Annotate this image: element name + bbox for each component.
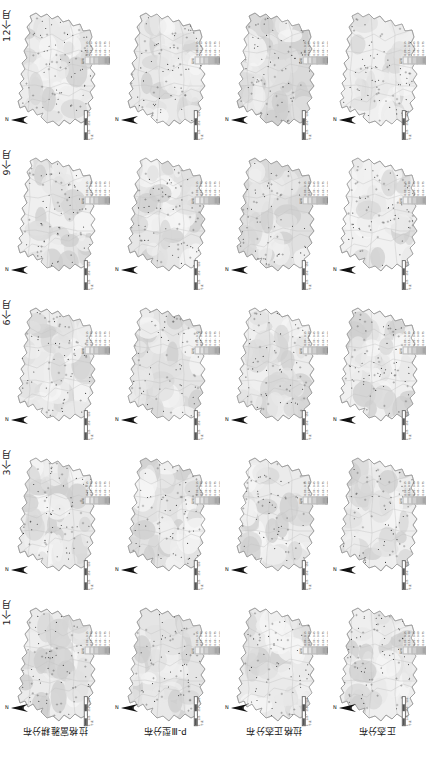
legend-label: 0.60 - 0.75 <box>215 631 218 645</box>
legend-label: 0.60 - 0.75 <box>423 331 426 345</box>
legend-label: 0.45 - 0.60 <box>418 41 421 55</box>
scale-tick: 500 <box>89 261 92 266</box>
svg-text:N: N <box>225 116 229 122</box>
legend-label: 0.30 - 0.45 <box>413 181 416 195</box>
svg-text:N: N <box>5 704 9 710</box>
map-panel: 图例 0.00 - 0.15 0.15 - 0.30 0.30 - 0.45 0… <box>220 590 328 740</box>
legend-label: 0.15 - 0.30 <box>91 41 94 55</box>
legend-label: 0.00 - 0.15 <box>86 181 89 195</box>
legend-label: 0.00 - 0.15 <box>86 331 89 345</box>
map-legend: 图例 0.00 - 0.15 0.15 - 0.30 0.30 - 0.45 0… <box>192 624 220 654</box>
legend-label: 0.60 - 0.75 <box>105 331 108 345</box>
legend-label: 0.00 - 0.15 <box>404 181 407 195</box>
scale-tick: 500 <box>307 561 310 566</box>
svg-text:N: N <box>115 566 119 572</box>
legend-label: 0.60 - 0.75 <box>423 631 426 645</box>
scale-tick: 250 <box>407 120 410 125</box>
legend-label: 0.30 - 0.45 <box>205 181 208 195</box>
map-legend: 图例 0.00 - 0.15 0.15 - 0.30 0.30 - 0.45 0… <box>82 34 110 64</box>
legend-label: 0.30 - 0.45 <box>413 631 416 645</box>
scale-tick: 250 <box>307 420 310 425</box>
scale-bar-unit: 千米 <box>310 284 313 290</box>
legend-label: 0.45 - 0.60 <box>210 331 213 345</box>
legend-label: 0.45 - 0.60 <box>318 631 321 645</box>
legend-label: 0.45 - 0.60 <box>100 41 103 55</box>
north-arrow: N <box>224 702 250 714</box>
north-arrow: N <box>4 414 30 426</box>
scale-tick: 500 <box>307 697 310 702</box>
legend-label: 0.15 - 0.30 <box>91 331 94 345</box>
scale-tick: 500 <box>199 111 202 116</box>
scale-tick: 250 <box>407 706 410 711</box>
north-arrow: N <box>224 564 250 576</box>
north-arrow: N <box>332 702 358 714</box>
map-panel: 9个月 图例 0.00 - 0.15 0.15 - 0.30 0.30 - 0.… <box>0 140 110 290</box>
legend-label: 0.30 - 0.45 <box>205 331 208 345</box>
scale-tick: 250 <box>307 570 310 575</box>
scale-bar: 0125250500 千米 <box>84 410 94 440</box>
scale-tick: 500 <box>407 111 410 116</box>
legend-label: 0.00 - 0.15 <box>304 331 307 345</box>
legend-label: 0.15 - 0.30 <box>201 331 204 345</box>
svg-text:N: N <box>225 416 229 422</box>
scale-bar: 0125250500 千米 <box>194 110 204 140</box>
map-grid: 12个月 图例 0.00 - 0.15 0.15 - 0.30 0.30 - 0… <box>0 0 443 778</box>
map-legend: 图例 0.00 - 0.15 0.15 - 0.30 0.30 - 0.45 0… <box>82 624 110 654</box>
legend-label: 0.60 - 0.75 <box>323 481 326 495</box>
north-arrow-icon: N <box>332 114 358 126</box>
map-legend: 图例 0.00 - 0.15 0.15 - 0.30 0.30 - 0.45 0… <box>400 624 426 654</box>
scale-bar-unit: 千米 <box>310 134 313 140</box>
north-arrow: N <box>114 264 140 276</box>
scale-tick: 500 <box>89 111 92 116</box>
map-legend: 图例 0.00 - 0.15 0.15 - 0.30 0.30 - 0.45 0… <box>400 324 426 354</box>
legend-label: 0.15 - 0.30 <box>201 181 204 195</box>
map-legend: 图例 0.00 - 0.15 0.15 - 0.30 0.30 - 0.45 0… <box>192 474 220 504</box>
map-panel: 1个月 图例 0.00 - 0.15 0.15 - 0.30 0.30 - 0.… <box>0 590 110 740</box>
north-arrow-icon: N <box>114 564 140 576</box>
map-panel: 图例 0.00 - 0.15 0.15 - 0.30 0.30 - 0.45 0… <box>110 0 220 140</box>
svg-text:N: N <box>115 116 119 122</box>
legend-label: 0.15 - 0.30 <box>201 631 204 645</box>
legend-label: 0.30 - 0.45 <box>413 481 416 495</box>
legend-label: 0.45 - 0.60 <box>318 41 321 55</box>
scale-bar: 0125250500 千米 <box>302 110 312 140</box>
map-panel: 图例 0.00 - 0.15 0.15 - 0.30 0.30 - 0.45 0… <box>328 590 426 740</box>
svg-text:N: N <box>225 266 229 272</box>
legend-label: 0.45 - 0.60 <box>100 181 103 195</box>
svg-text:N: N <box>333 566 337 572</box>
north-arrow-icon: N <box>332 414 358 426</box>
legend-label: 0.00 - 0.15 <box>86 41 89 55</box>
legend-label: 0.00 - 0.15 <box>404 631 407 645</box>
scale-bar: 0125250500 千米 <box>84 260 94 290</box>
north-arrow: N <box>114 564 140 576</box>
map-panel: 图例 0.00 - 0.15 0.15 - 0.30 0.30 - 0.45 0… <box>220 0 328 140</box>
map-panel: 图例 0.00 - 0.15 0.15 - 0.30 0.30 - 0.45 0… <box>110 440 220 590</box>
map-legend: 图例 0.00 - 0.15 0.15 - 0.30 0.30 - 0.45 0… <box>300 474 328 504</box>
legend-label: 0.00 - 0.15 <box>404 41 407 55</box>
north-arrow: N <box>114 114 140 126</box>
scale-bar: 0125250500 千米 <box>402 560 412 590</box>
scale-tick: 250 <box>407 420 410 425</box>
legend-label: 0.15 - 0.30 <box>409 481 412 495</box>
map-legend: 图例 0.00 - 0.15 0.15 - 0.30 0.30 - 0.45 0… <box>192 34 220 64</box>
figure-map-matrix: 12个月 图例 0.00 - 0.15 0.15 - 0.30 0.30 - 0… <box>0 0 443 778</box>
north-arrow: N <box>332 114 358 126</box>
north-arrow-icon: N <box>4 414 30 426</box>
legend-label: 0.30 - 0.45 <box>205 41 208 55</box>
legend-label: 0.60 - 0.75 <box>215 481 218 495</box>
legend-label: 0.60 - 0.75 <box>323 181 326 195</box>
north-arrow-icon: N <box>114 264 140 276</box>
scale-bar-unit: 千米 <box>410 584 413 590</box>
north-arrow: N <box>114 702 140 714</box>
legend-label: 0.00 - 0.15 <box>86 631 89 645</box>
north-arrow-icon: N <box>114 414 140 426</box>
legend-label: 0.45 - 0.60 <box>210 41 213 55</box>
map-panel: 图例 0.00 - 0.15 0.15 - 0.30 0.30 - 0.45 0… <box>220 140 328 290</box>
north-arrow-icon: N <box>332 264 358 276</box>
map-panel: 图例 0.00 - 0.15 0.15 - 0.30 0.30 - 0.45 0… <box>220 290 328 440</box>
legend-label: 0.30 - 0.45 <box>95 181 98 195</box>
north-arrow-icon: N <box>4 264 30 276</box>
legend-label: 0.60 - 0.75 <box>323 331 326 345</box>
legend-label: 0.00 - 0.15 <box>196 331 199 345</box>
legend-label: 0.30 - 0.45 <box>95 631 98 645</box>
